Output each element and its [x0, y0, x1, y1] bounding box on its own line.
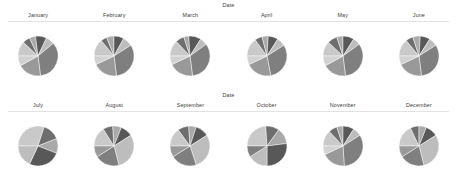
facet-strip-march: March [152, 9, 228, 21]
facet-strip-label: October [257, 102, 277, 108]
pie-chart [322, 125, 364, 167]
pie-wrapper [246, 125, 288, 167]
facet-strip-label: February [103, 12, 126, 18]
facet-strip-label: March [183, 12, 199, 18]
facet-strip-label: January [28, 12, 48, 18]
facet-header-band: JulyAugustSeptemberOctoberNovemberDecemb… [0, 99, 457, 111]
facet-strip-label: November [330, 102, 356, 108]
pie-wrapper [398, 125, 440, 167]
pie-wrapper [169, 125, 211, 167]
facet-strip-april: April [229, 9, 305, 21]
pie-chart [322, 35, 364, 77]
pie-slice [247, 126, 267, 146]
pie-chart [17, 35, 59, 77]
pie-wrapper [322, 125, 364, 167]
facet-strip-label: December [406, 102, 432, 108]
pie-chart [17, 125, 59, 167]
pie-chart [169, 35, 211, 77]
facet-panel-march [152, 22, 228, 90]
facet-panel-april [229, 22, 305, 90]
pie-wrapper [246, 35, 288, 77]
pie-wrapper [17, 125, 59, 167]
facet-strip-november: November [305, 99, 381, 111]
facet-panel-may [305, 22, 381, 90]
pie-wrapper [169, 35, 211, 77]
pie-wrapper [322, 35, 364, 77]
facet-header-band: JanuaryFebruaryMarchAprilMayJune [0, 9, 457, 21]
facet-strip-january: January [0, 9, 76, 21]
pie-wrapper [398, 35, 440, 77]
pie-wrapper [17, 35, 59, 77]
facet-strip-february: February [76, 9, 152, 21]
pie-chart [93, 35, 135, 77]
pie-chart [93, 125, 135, 167]
facet-strip-september: September [152, 99, 228, 111]
facet-panel-february [76, 22, 152, 90]
pie-chart [398, 35, 440, 77]
pie-wrapper [93, 125, 135, 167]
facet-strip-december: December [381, 99, 457, 111]
facet-panel-december [381, 112, 457, 180]
facet-panel-november [305, 112, 381, 180]
facet-strip-august: August [76, 99, 152, 111]
facet-strip-july: July [0, 99, 76, 111]
facet-panel-september [152, 112, 228, 180]
facet-strip-label: April [261, 12, 272, 18]
facet-variable-title: Date [0, 2, 457, 9]
facet-strip-label: June [413, 12, 425, 18]
facet-strip-label: May [337, 12, 348, 18]
facet-strip-label: September [177, 102, 204, 108]
facet-strip-label: August [105, 102, 123, 108]
facet-panel-july [0, 112, 76, 180]
facet-variable-title: Date [0, 92, 457, 99]
pie-chart [398, 125, 440, 167]
facet-row: DateJanuaryFebruaryMarchAprilMayJune [0, 0, 457, 90]
facet-strip-label: July [33, 102, 43, 108]
pie-slice [267, 143, 287, 166]
pie-chart [246, 125, 288, 167]
pie-chart-trellis: DateJanuaryFebruaryMarchAprilMayJuneDate… [0, 0, 457, 181]
facet-strip-june: June [381, 9, 457, 21]
facet-panel-october [229, 112, 305, 180]
facet-panel-june [381, 22, 457, 90]
pie-chart [169, 125, 211, 167]
facet-row: DateJulyAugustSeptemberOctoberNovemberDe… [0, 90, 457, 180]
facet-strip-may: May [305, 9, 381, 21]
facet-panel-august [76, 112, 152, 180]
pie-chart [246, 35, 288, 77]
facet-strip-october: October [229, 99, 305, 111]
pie-wrapper [93, 35, 135, 77]
facet-panel-january [0, 22, 76, 90]
